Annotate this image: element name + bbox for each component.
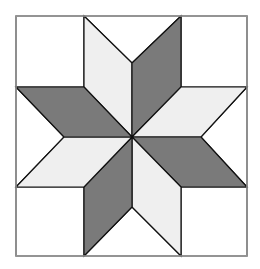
corner-square-top-right	[181, 16, 247, 87]
corner-square-bottom-left	[16, 187, 84, 256]
corner-square-bottom-right	[181, 187, 247, 256]
eight-pointed-star-svg	[0, 0, 260, 269]
quilt-block-diagram	[0, 0, 260, 269]
corner-square-top-left	[16, 16, 84, 87]
